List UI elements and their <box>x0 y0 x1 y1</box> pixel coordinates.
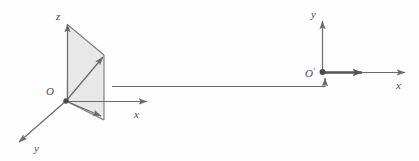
y-axis-line <box>19 101 66 142</box>
z-axis-label: z <box>55 10 61 22</box>
x-prime-axis-label: x <box>395 79 401 91</box>
y-axis-label: y <box>33 142 39 154</box>
prime-symbol: ′ <box>313 66 316 76</box>
figure-canvas: z x y O y x O′ <box>0 0 419 161</box>
x-axis-label: x <box>133 108 139 120</box>
origin-label-O-prime: O′ <box>305 66 316 79</box>
projection-connector-path <box>112 78 325 87</box>
origin-point-O-prime <box>320 69 326 75</box>
left-diagram-group: z x y O <box>19 10 147 154</box>
origin-letter: O <box>305 67 313 79</box>
origin-point-O <box>63 98 68 103</box>
origin-label-O: O <box>46 85 54 97</box>
right-diagram-group: y x O′ <box>305 8 405 91</box>
y-prime-axis-label: y <box>310 8 316 20</box>
connector-group <box>112 78 325 87</box>
diagram-svg: z x y O y x O′ <box>0 0 419 161</box>
